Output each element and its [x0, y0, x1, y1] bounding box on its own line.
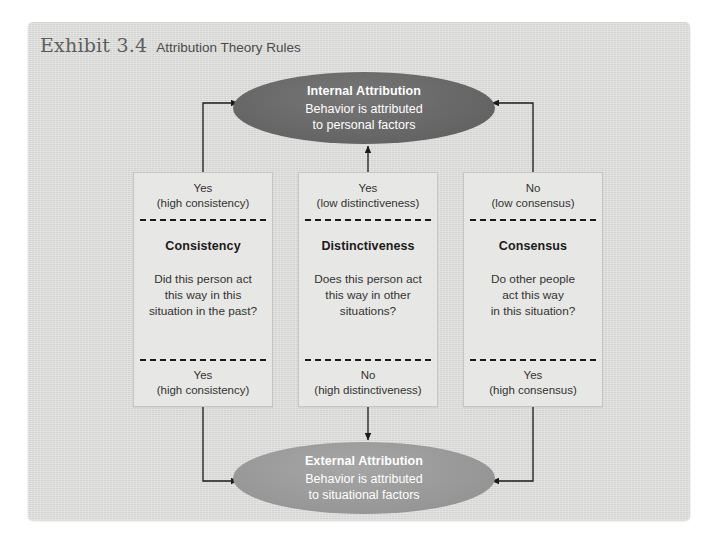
- consensus-question: Do other people act this way in this sit…: [491, 271, 576, 319]
- consistency-question-line-3: situation in the past?: [149, 303, 257, 319]
- distinctiveness-bottom-answer-qualifier: (high distinctiveness): [303, 383, 433, 398]
- distinctiveness-bottom-answer-value: No: [303, 368, 433, 383]
- consensus-bottom-answer-value: Yes: [468, 368, 598, 383]
- distinctiveness-question: Does this person act this way in other s…: [314, 271, 422, 319]
- internal-attribution-node: Internal Attribution Behavior is attribu…: [233, 72, 495, 144]
- consensus-body: Consensus Do other people act this way i…: [464, 221, 602, 359]
- consensus-question-line-3: in this situation?: [491, 303, 576, 319]
- consensus-top-answer: No (low consensus): [464, 173, 602, 219]
- consistency-question: Did this person act this way in this sit…: [149, 271, 257, 319]
- page-title: Attribution Theory Rules: [156, 40, 301, 55]
- consensus-top-answer-value: No: [468, 181, 598, 196]
- consensus-factor-name: Consensus: [499, 239, 567, 253]
- distinctiveness-factor-name: Distinctiveness: [321, 239, 414, 253]
- consensus-column: No (low consensus) Consensus Do other pe…: [463, 172, 603, 407]
- distinctiveness-column: Yes (low distinctiveness) Distinctivenes…: [298, 172, 438, 407]
- external-attribution-title: External Attribution: [305, 454, 423, 469]
- consistency-bottom-answer-value: Yes: [138, 368, 268, 383]
- consistency-question-line-1: Did this person act: [149, 271, 257, 287]
- exhibit-figure: Exhibit 3.4 Attribution Theory Rules Int…: [0, 0, 723, 546]
- consistency-bottom-answer-qualifier: (high consistency): [138, 383, 268, 398]
- consensus-bottom-answer-qualifier: (high consensus): [468, 383, 598, 398]
- figure-heading: Exhibit 3.4 Attribution Theory Rules: [40, 34, 301, 56]
- distinctiveness-question-line-2: this way in other: [314, 287, 422, 303]
- internal-attribution-line-2: to personal factors: [313, 117, 416, 133]
- internal-attribution-title: Internal Attribution: [307, 84, 421, 99]
- distinctiveness-top-answer-value: Yes: [303, 181, 433, 196]
- consistency-column: Yes (high consistency) Consistency Did t…: [133, 172, 273, 407]
- distinctiveness-body: Distinctiveness Does this person act thi…: [299, 221, 437, 359]
- consensus-bottom-answer: Yes (high consensus): [464, 361, 602, 406]
- exhibit-number: Exhibit 3.4: [40, 34, 147, 56]
- consensus-question-line-2: act this way: [491, 287, 576, 303]
- external-attribution-line-1: Behavior is attributed: [305, 471, 422, 487]
- external-attribution-line-2: to situational factors: [308, 487, 419, 503]
- distinctiveness-question-line-1: Does this person act: [314, 271, 422, 287]
- external-attribution-node: External Attribution Behavior is attribu…: [233, 442, 495, 514]
- internal-attribution-line-1: Behavior is attributed: [305, 101, 422, 117]
- consensus-top-answer-qualifier: (low consensus): [468, 196, 598, 211]
- consistency-question-line-2: this way in this: [149, 287, 257, 303]
- consistency-top-answer-value: Yes: [138, 181, 268, 196]
- distinctiveness-bottom-answer: No (high distinctiveness): [299, 361, 437, 406]
- consistency-body: Consistency Did this person act this way…: [134, 221, 272, 359]
- consistency-top-answer-qualifier: (high consistency): [138, 196, 268, 211]
- consistency-factor-name: Consistency: [165, 239, 240, 253]
- consistency-top-answer: Yes (high consistency): [134, 173, 272, 219]
- consensus-question-line-1: Do other people: [491, 271, 576, 287]
- consistency-bottom-answer: Yes (high consistency): [134, 361, 272, 406]
- distinctiveness-top-answer-qualifier: (low distinctiveness): [303, 196, 433, 211]
- distinctiveness-question-line-3: situations?: [314, 303, 422, 319]
- distinctiveness-top-answer: Yes (low distinctiveness): [299, 173, 437, 219]
